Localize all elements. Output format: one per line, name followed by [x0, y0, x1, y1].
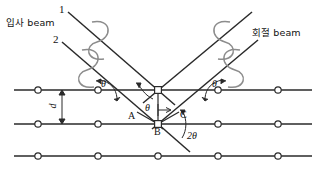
atom [275, 153, 281, 159]
atom [275, 87, 281, 93]
atom [155, 153, 161, 159]
atom [35, 153, 41, 159]
incident-wave-2 [79, 49, 98, 87]
ray-2-label: 2 [53, 34, 59, 45]
point-b-label: B [154, 127, 161, 137]
atom [35, 87, 41, 93]
atom [95, 153, 101, 159]
crystal-planes [14, 90, 312, 156]
d-spacing-indicator [59, 90, 65, 124]
d-arrow-up [59, 90, 65, 95]
diffracted-rays [143, 12, 258, 129]
incident-beam-label: 입사 beam [6, 18, 55, 28]
atom [215, 153, 221, 159]
theta-left-label: θ [101, 79, 106, 89]
atom [275, 121, 281, 127]
atom [215, 121, 221, 127]
scatter-point-top [155, 87, 162, 94]
theta-interior-label: θ [145, 103, 150, 113]
atom [95, 121, 101, 127]
diffracted-ray-2 [152, 40, 258, 129]
incident-ray-2 [62, 42, 163, 129]
theta-arc-right-head-top [221, 79, 226, 84]
diffracted-beam-label: 회절 beam [252, 28, 301, 38]
point-a-label: A [128, 111, 135, 121]
d-spacing-label: d [48, 104, 58, 109]
d-arrow-down [59, 119, 65, 124]
ray-1-label: 1 [59, 4, 65, 15]
point-c-label: C [180, 110, 187, 120]
incident-wave-1 [89, 21, 108, 59]
theta-right-label: θ [212, 79, 217, 89]
atom [35, 121, 41, 127]
two-theta-label: 2θ [187, 131, 197, 141]
bragg-diffraction-figure: 입사 beam 회절 beam 1 2 θ θ θ 2θ A B C d [0, 0, 322, 174]
